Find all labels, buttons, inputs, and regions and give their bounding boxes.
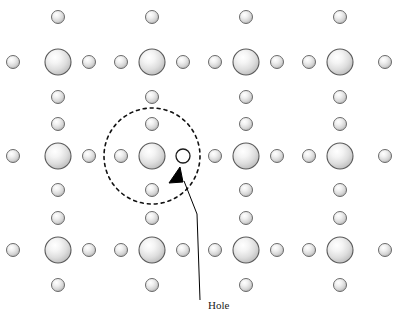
small-atom: [52, 184, 65, 197]
large-atom: [233, 143, 259, 169]
small-atom: [240, 184, 253, 197]
small-atom: [52, 118, 65, 131]
vacancy-hole: [176, 149, 190, 163]
small-atom: [271, 244, 284, 257]
small-atom: [52, 279, 65, 292]
lattice-figure: Hole: [0, 0, 394, 325]
hole-label: Hole: [208, 299, 230, 311]
small-atom: [7, 244, 20, 257]
small-atom: [334, 184, 347, 197]
small-atom: [240, 91, 253, 104]
large-atom: [233, 237, 259, 263]
large-atom: [327, 49, 353, 75]
small-atom: [240, 212, 253, 225]
small-atom: [83, 150, 96, 163]
small-atom: [177, 244, 190, 257]
small-atom: [271, 150, 284, 163]
small-atom: [334, 279, 347, 292]
small-atom: [334, 118, 347, 131]
small-atom: [7, 56, 20, 69]
small-atom: [303, 56, 316, 69]
large-atom: [233, 49, 259, 75]
small-atom: [83, 244, 96, 257]
small-atom: [83, 56, 96, 69]
large-atom: [45, 237, 71, 263]
small-atom: [240, 11, 253, 24]
large-atom: [45, 49, 71, 75]
small-atom: [146, 184, 159, 197]
small-atom: [115, 56, 128, 69]
small-atom: [334, 212, 347, 225]
small-atom: [209, 56, 222, 69]
small-atom: [115, 150, 128, 163]
small-atom: [334, 91, 347, 104]
large-atom: [139, 143, 165, 169]
small-atom: [271, 56, 284, 69]
small-atom: [303, 150, 316, 163]
small-atom: [146, 212, 159, 225]
small-atom: [7, 150, 20, 163]
small-atom: [52, 11, 65, 24]
small-atom: [146, 279, 159, 292]
large-atom: [139, 237, 165, 263]
small-atom: [146, 91, 159, 104]
large-atom: [139, 49, 165, 75]
hole-circle: [176, 149, 190, 163]
small-atom: [209, 150, 222, 163]
small-atom: [209, 244, 222, 257]
small-atom: [240, 118, 253, 131]
large-atom: [327, 237, 353, 263]
small-atom: [146, 11, 159, 24]
lattice-diagram-canvas: Hole: [0, 0, 394, 325]
small-atom: [379, 150, 392, 163]
large-atom: [327, 143, 353, 169]
small-atom: [146, 118, 159, 131]
large-atom: [45, 143, 71, 169]
small-atom: [115, 244, 128, 257]
small-atom: [303, 244, 316, 257]
small-atom: [379, 244, 392, 257]
small-atom: [52, 212, 65, 225]
small-atom: [379, 56, 392, 69]
small-atom: [52, 91, 65, 104]
small-atom: [334, 11, 347, 24]
small-atom: [177, 56, 190, 69]
small-atom: [240, 279, 253, 292]
